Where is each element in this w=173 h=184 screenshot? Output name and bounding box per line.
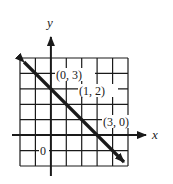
x-axis-label: x (151, 127, 158, 142)
point-label-1-2: (1, 2) (79, 84, 105, 98)
y-axis-label: y (45, 15, 53, 30)
coordinate-plane: y x 0 (0, 3) (1, 2) (3, 0) (0, 0, 173, 184)
origin-label: 0 (40, 144, 46, 158)
point-label-0-3: (0, 3) (56, 68, 82, 82)
point-label-3-0: (3, 0) (103, 115, 129, 129)
